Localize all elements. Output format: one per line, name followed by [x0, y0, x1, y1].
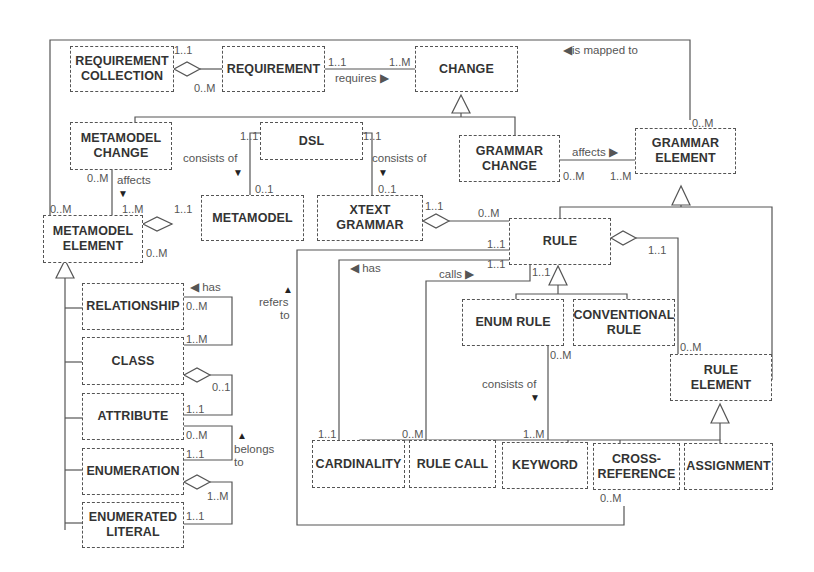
mult-metamodel-01: 0..1 — [255, 183, 273, 195]
label-belongs: belongs — [234, 443, 274, 456]
arrow-consists-of-metamodel-icon: ▼ — [233, 166, 243, 179]
label-has-cardinality: ◀ has — [350, 262, 381, 275]
class-metamodel-element: METAMODEL ELEMENT — [43, 215, 143, 263]
mult-relationship-1M: 1..M — [186, 333, 207, 345]
class-requirement: REQUIREMENT — [222, 46, 325, 92]
label-has-relationship: ◀ has — [190, 281, 221, 294]
mult-rule-11-b: 1..1 — [487, 258, 505, 270]
class-assignment: ASSIGNMENT — [684, 443, 773, 490]
arrow-consists-of-enum-icon: ▼ — [530, 391, 540, 404]
class-change: CHANGE — [415, 46, 518, 92]
class-rule-element: RULE ELEMENT — [670, 354, 772, 401]
class-relationship: RELATIONSHIP — [82, 283, 184, 330]
class-enumeration: ENUMERATION — [82, 448, 184, 495]
mult-class-01: 0..1 — [212, 381, 230, 393]
arrow-belongs-to-icon: ▲ — [237, 429, 247, 442]
mult-dsl-left: 1..1 — [240, 130, 258, 142]
mult-rulecall-0M: 0..M — [402, 428, 423, 440]
mult-rc-req-top: 1..1 — [174, 44, 192, 56]
label-affects-metamodel: affects — [117, 174, 151, 187]
mult-metamodel-11: 1..1 — [174, 203, 192, 215]
class-rule: RULE — [509, 218, 611, 265]
label-requires: requires ▶ — [335, 72, 389, 85]
mult-req-change-right: 1..M — [389, 56, 410, 68]
mult-gelement-1M: 1..M — [610, 170, 631, 182]
mult-cardinality-11: 1..1 — [318, 428, 336, 440]
arrow-refers-to-icon: ▲ — [283, 283, 293, 296]
mult-crossref-0M: 0..M — [600, 492, 621, 504]
mult-rule-11-right: 1..1 — [648, 244, 666, 256]
mult-literal-11: 1..1 — [186, 510, 204, 522]
label-consists-of-xtext: consists of — [372, 152, 426, 165]
mult-keyword-1M: 1..M — [523, 428, 544, 440]
mult-enumeration-11: 1..1 — [186, 448, 204, 460]
label-calls: calls ▶ — [439, 268, 474, 281]
class-conventional-rule: CONVENTIONAL RULE — [573, 299, 675, 346]
class-cardinality: CARDINALITY — [312, 440, 405, 488]
mult-enumrule-0M: 0..M — [550, 349, 571, 361]
mult-mmchange-0M: 0..M — [87, 172, 108, 184]
class-metamodel-change: METAMODEL CHANGE — [70, 122, 172, 170]
mult-mmelement-0M-right: 0..M — [146, 247, 167, 259]
label-consists-of-metamodel: consists of — [183, 152, 237, 165]
mult-xtext-01: 0..1 — [378, 183, 396, 195]
class-dsl: DSL — [260, 122, 363, 160]
label-refers-to: to — [280, 309, 290, 322]
mult-req-change-left: 1..1 — [328, 56, 346, 68]
mult-attribute-0M: 0..M — [186, 429, 207, 441]
class-enum-rule: ENUM RULE — [462, 299, 564, 346]
mult-dsl-right: 1..1 — [363, 130, 381, 142]
mult-rule-11-c: 1..1 — [532, 266, 550, 278]
class-keyword: KEYWORD — [502, 442, 588, 489]
class-grammar-element: GRAMMAR ELEMENT — [635, 128, 736, 174]
arrow-consists-of-xtext-icon: ▼ — [378, 166, 388, 179]
mult-mmelement-0M-top: 0..M — [50, 203, 71, 215]
class-class: CLASS — [82, 337, 184, 385]
mult-rc-req-bottom: 0..M — [194, 82, 215, 94]
mult-mapped-ge: 0..M — [692, 117, 713, 129]
class-grammar-change: GRAMMAR CHANGE — [459, 135, 560, 182]
label-belongs-to: to — [234, 456, 244, 469]
mult-mmelement-1M: 1..M — [122, 203, 143, 215]
class-metamodel: METAMODEL — [201, 195, 304, 241]
mult-gchange-0M: 0..M — [563, 170, 584, 182]
mult-rule-11-a: 1..1 — [487, 238, 505, 250]
label-consists-of-enum: consists of — [482, 378, 536, 391]
class-requirement-collection: REQUIREMENT COLLECTION — [70, 46, 174, 92]
mult-relationship-0M: 0..M — [186, 300, 207, 312]
label-is-mapped-to: ◀is mapped to — [563, 44, 638, 57]
label-refers: refers — [259, 296, 288, 309]
mult-xtext-11: 1..1 — [425, 200, 443, 212]
arrow-affects-metamodel-icon: ▼ — [118, 187, 128, 200]
class-attribute: ATTRIBUTE — [82, 393, 184, 440]
class-xtext-grammar: XTEXT GRAMMAR — [317, 195, 423, 241]
class-cross-reference: CROSS- REFERENCE — [593, 443, 680, 490]
mult-attribute-11: 1..1 — [186, 403, 204, 415]
mult-enumeration-1M: 1..M — [207, 490, 228, 502]
mult-ruleelement-0M: 0..M — [680, 341, 701, 353]
mult-rule-0M: 0..M — [478, 207, 499, 219]
class-rule-call: RULE CALL — [409, 440, 496, 488]
uml-diagram: REQUIREMENT COLLECTION REQUIREMENT CHANG… — [0, 0, 814, 572]
class-enumerated-literal: ENUMERATED LITERAL — [82, 502, 184, 548]
label-affects-grammar: affects ▶ — [572, 146, 618, 159]
